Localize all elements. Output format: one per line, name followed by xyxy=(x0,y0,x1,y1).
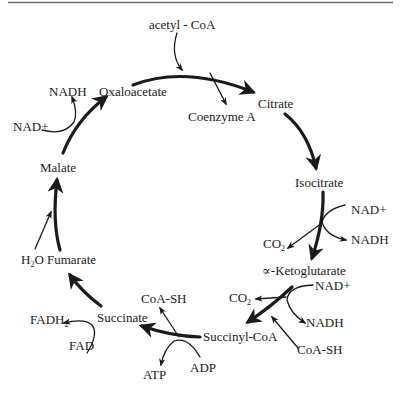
arrow-fumarate-to-malate xyxy=(55,180,60,250)
arrow-citrate-to-isocitrate xyxy=(285,114,316,168)
label-alpha-ketoglutarate: ∝-Ketoglutarate xyxy=(262,263,346,278)
label-mal-nad-plus: NAD+ xyxy=(13,119,49,134)
label-iso-nadh: NADH xyxy=(351,232,389,247)
label-succinate: Succinate xyxy=(97,310,148,325)
label-coenzyme-a: Coenzyme A xyxy=(188,109,256,124)
label-iso-co2: CO2 xyxy=(263,236,285,253)
arrow-acetylcoa-in xyxy=(174,33,182,70)
arrow-succinylcoa-to-succinate xyxy=(142,326,200,337)
label-fumarate: Fumarate xyxy=(47,252,96,267)
label-atp: ATP xyxy=(143,367,166,382)
arrow-iso-nad-to-nadh xyxy=(322,205,346,240)
label-akg-co2: CO2 xyxy=(229,290,251,307)
arrow-h2o-in xyxy=(35,212,51,249)
label-akg-nad-plus: NAD+ xyxy=(315,278,351,293)
label-mal-nadh: NADH xyxy=(49,84,87,99)
label-iso-nad-plus: NAD+ xyxy=(351,202,387,217)
label-isocitrate: Isocitrate xyxy=(295,175,344,190)
arrow-malate-to-oxaloacetate xyxy=(63,97,106,153)
label-fad: FAD xyxy=(69,338,94,353)
label-succinyl-coa: Succinyl-CoA xyxy=(203,329,278,344)
label-adp: ADP xyxy=(190,360,216,375)
arrow-succinate-to-fumarate xyxy=(70,275,101,306)
arrow-ketoglutarate-to-succinylcoa xyxy=(248,287,292,322)
label-h2o: H2O xyxy=(21,252,44,269)
label-acetyl-coa: acetyl - CoA xyxy=(149,17,216,32)
arrow-coenzymea-out xyxy=(210,73,226,104)
label-oxaloacetate: Oxaloacetate xyxy=(99,84,167,99)
arrow-isocitrate-to-ketoglutarate xyxy=(312,192,323,258)
krebs-cycle-diagram: acetyl - CoA Oxaloacetate Citrate Coenzy… xyxy=(0,0,412,409)
label-akg-nadh: NADH xyxy=(306,315,344,330)
label-akg-coash: CoA-SH xyxy=(297,342,343,357)
label-malate: Malate xyxy=(40,160,76,175)
label-citrate: Citrate xyxy=(258,96,294,111)
label-fadh2: FADH2 xyxy=(30,312,68,329)
label-succ-coash: CoA-SH xyxy=(141,291,187,306)
